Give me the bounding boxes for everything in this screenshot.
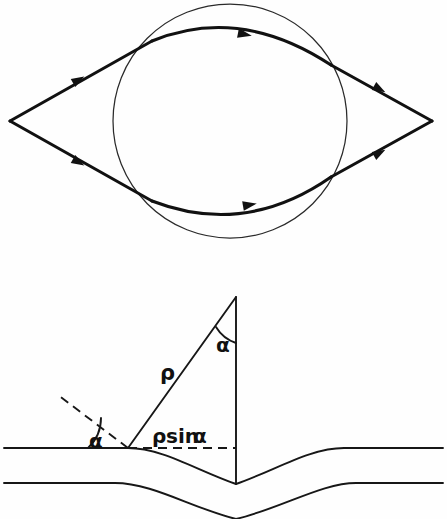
- rho-sin-alpha-alpha: α: [193, 424, 207, 448]
- alpha-base-label: α: [89, 429, 103, 453]
- beam-deflection-figure: ρ α α ρ sin α: [0, 280, 447, 519]
- band-lower-boundary: [4, 483, 443, 519]
- direction-arrow-lower-curve: [242, 199, 257, 211]
- upper-left-ray-segment: [10, 41, 152, 121]
- alpha-apex-label: α: [216, 333, 230, 357]
- rho-label: ρ: [160, 361, 175, 385]
- circle-outline: [113, 4, 347, 238]
- lower-ray-arc: [152, 177, 331, 215]
- rho-sin-alpha-label: ρ sin α: [152, 424, 207, 448]
- lower-left-ray-segment: [10, 121, 152, 201]
- rho-sin-alpha-rho: ρ: [152, 424, 166, 448]
- ray-path-through-circle-figure: [0, 0, 447, 260]
- band-upper-boundary: [4, 448, 443, 484]
- figure-sheet: ρ α α ρ sin α: [0, 0, 447, 519]
